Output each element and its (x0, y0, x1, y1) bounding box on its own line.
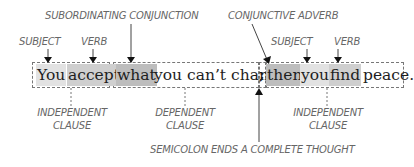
arrow-conjunctive (252, 24, 268, 62)
